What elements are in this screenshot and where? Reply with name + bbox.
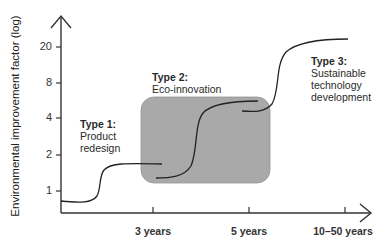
innovation-types-diagram: Environmental improvement factor (log) 2…: [0, 0, 390, 251]
x-tick-label: 3 years: [113, 225, 193, 237]
type1-label: Type 1: Product redesign: [80, 118, 120, 154]
type1-title: Type 1:: [80, 118, 120, 130]
x-tick-label: 10–50 years: [303, 225, 383, 237]
y-tick-label: 8: [30, 76, 52, 88]
eco-innovation-region: [141, 97, 270, 183]
type3-desc-line: development: [311, 91, 371, 103]
type2-desc-line: Eco-innovation: [152, 83, 221, 95]
x-ticks: [153, 207, 345, 213]
type2-title: Type 2:: [152, 71, 221, 83]
diagram-canvas: [0, 0, 390, 251]
type3-title: Type 3:: [311, 55, 371, 67]
y-axis-label: Environmental improvement factor (log): [9, 15, 21, 216]
y-tick-label: 20: [30, 40, 52, 52]
type3-label: Type 3: Sustainable technology developme…: [311, 55, 371, 103]
y-ticks: [56, 47, 61, 191]
type1-desc-line: Product: [80, 130, 120, 142]
type3-desc-line: Sustainable: [311, 67, 371, 79]
type1-desc-line: redesign: [80, 142, 120, 154]
type3-desc-line: technology: [311, 79, 371, 91]
y-tick-label: 4: [30, 111, 52, 123]
type2-label: Type 2: Eco-innovation: [152, 71, 221, 95]
x-tick-label: 5 years: [209, 225, 289, 237]
y-tick-label: 2: [30, 148, 52, 160]
y-tick-label: 1: [30, 184, 52, 196]
